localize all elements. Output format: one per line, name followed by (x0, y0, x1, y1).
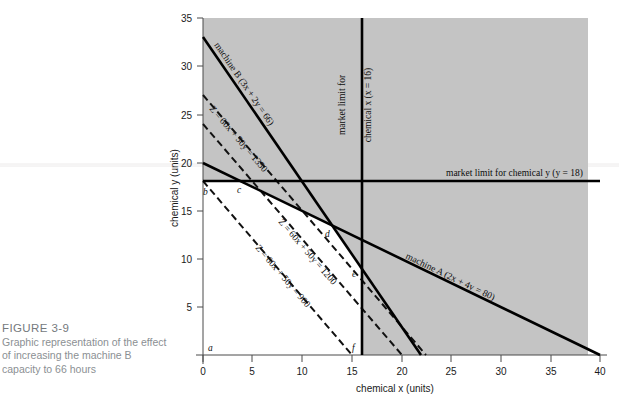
chart-figure: 35 30 25 20 15 10 5 0 (0, 0, 619, 409)
vertex-label-b: b (203, 187, 208, 197)
x-tick-35: 35 (545, 366, 557, 377)
y-axis-tick-labels: 35 30 25 20 15 10 5 (181, 13, 193, 313)
x-tick-40: 40 (594, 366, 606, 377)
y-tick-15: 15 (181, 206, 193, 217)
x-axis-ticks (203, 355, 600, 362)
vertex-label-e: e (352, 269, 356, 279)
vertex-label-a: a (208, 343, 213, 353)
y-axis-ticks (197, 18, 203, 307)
x-tick-30: 30 (495, 366, 507, 377)
x-tick-20: 20 (396, 366, 408, 377)
y-tick-30: 30 (181, 61, 193, 72)
vertex-label-d: d (325, 229, 330, 239)
x-tick-5: 5 (249, 366, 255, 377)
figure-page: FIGURE 3-9 Graphic representation of the… (0, 0, 619, 409)
label-market-limit-x-line2: chemical x (x = 16) (363, 68, 374, 142)
x-tick-15: 15 (346, 366, 358, 377)
x-tick-25: 25 (445, 366, 457, 377)
y-tick-20: 20 (181, 158, 193, 169)
x-axis-tick-labels: 0 5 10 15 20 25 30 35 40 (200, 366, 606, 377)
y-tick-10: 10 (181, 254, 193, 265)
label-market-limit-y: market limit for chemical y (y = 18) (446, 168, 583, 179)
x-tick-0: 0 (200, 366, 206, 377)
y-axis-title: chemical y (units) (169, 149, 180, 227)
x-tick-10: 10 (296, 366, 308, 377)
y-tick-5: 5 (186, 302, 192, 313)
label-market-limit-x-line1: market limit for (337, 74, 347, 135)
y-tick-35: 35 (181, 13, 193, 24)
y-tick-25: 25 (181, 110, 193, 121)
x-axis-title: chemical x (units) (356, 383, 434, 394)
